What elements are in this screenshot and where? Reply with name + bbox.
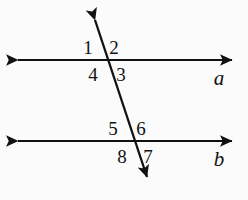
angle-label-1: 1 — [80, 38, 96, 57]
line-label-a: a — [210, 68, 228, 89]
angle-label-8: 8 — [114, 147, 130, 166]
angle-label-3: 3 — [113, 65, 129, 84]
angle-label-4: 4 — [85, 65, 101, 84]
line-label-b: b — [210, 149, 228, 170]
angle-label-5: 5 — [105, 119, 121, 138]
angle-label-2: 2 — [106, 38, 122, 57]
angle-label-7: 7 — [140, 147, 156, 166]
figure-canvas — [0, 0, 248, 200]
geometry-figure: 1 2 3 4 5 6 7 8 a b — [0, 0, 248, 200]
angle-label-6: 6 — [133, 119, 149, 138]
